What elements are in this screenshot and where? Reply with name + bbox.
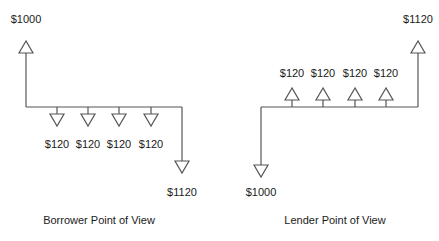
lender-outflow-label: $1000 bbox=[246, 186, 277, 198]
borrower-caption: Borrower Point of View bbox=[43, 214, 155, 226]
lender-final-label: $1120 bbox=[403, 13, 433, 25]
lender-receipt-label: $120 bbox=[343, 67, 367, 79]
down-arrow-icon bbox=[50, 114, 64, 126]
borrower-payment-label: $120 bbox=[107, 138, 131, 150]
borrower-payment-arrows bbox=[50, 107, 158, 126]
up-arrow-icon bbox=[19, 41, 33, 53]
lender-receipt-label: $120 bbox=[374, 67, 398, 79]
lender-timeline bbox=[254, 41, 425, 177]
cash-flow-diagram bbox=[0, 0, 439, 241]
lender-receipt-arrows bbox=[285, 88, 393, 107]
lender-receipt-label: $120 bbox=[311, 67, 335, 79]
borrower-timeline bbox=[19, 41, 189, 173]
down-arrow-icon bbox=[81, 114, 95, 126]
lender-receipt-label: $120 bbox=[280, 67, 304, 79]
borrower-payment-label: $120 bbox=[45, 138, 69, 150]
lender-caption: Lender Point of View bbox=[284, 214, 385, 226]
up-arrow-icon bbox=[379, 88, 393, 100]
down-arrow-icon bbox=[112, 114, 126, 126]
down-arrow-icon bbox=[144, 114, 158, 126]
borrower-final-label: $1120 bbox=[167, 186, 197, 198]
down-arrow-icon bbox=[175, 161, 189, 173]
down-arrow-icon bbox=[254, 165, 268, 177]
borrower-inflow-label: $1000 bbox=[11, 13, 42, 25]
up-arrow-icon bbox=[285, 88, 299, 100]
up-arrow-icon bbox=[316, 88, 330, 100]
up-arrow-icon bbox=[348, 88, 362, 100]
borrower-payment-label: $120 bbox=[76, 138, 100, 150]
up-arrow-icon bbox=[411, 41, 425, 53]
borrower-payment-label: $120 bbox=[139, 138, 163, 150]
